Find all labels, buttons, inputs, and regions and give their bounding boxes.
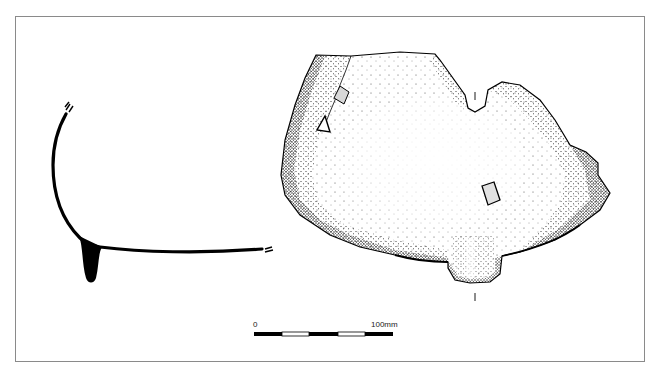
break-mark-top-icon xyxy=(65,102,73,112)
scale-bar xyxy=(254,332,393,336)
figure-illustration xyxy=(0,0,660,374)
sherd-drawing xyxy=(270,45,620,301)
break-mark-right-icon xyxy=(265,247,273,252)
profile-section xyxy=(53,102,273,283)
scale-start-label: 0 xyxy=(253,320,257,329)
scale-end-label: 100mm xyxy=(371,320,398,329)
